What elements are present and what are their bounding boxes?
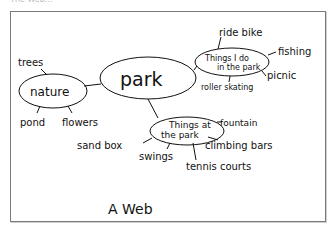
edge-nature-flowers: [68, 106, 72, 113]
edge-things-fishing: [268, 52, 276, 55]
leaf-fishing: fishing: [278, 46, 311, 57]
leaf-picnic: picnic: [267, 70, 296, 81]
leaf-climbing-bars: climbing bars: [205, 140, 273, 151]
label-things-at-park-2: the park: [161, 130, 200, 140]
leaf-tennis-courts: tennis courts: [186, 161, 251, 172]
leaf-flowers: flowers: [62, 117, 98, 128]
label-things-at-park-1: Things at: [168, 120, 211, 130]
leaf-pond: pond: [20, 117, 45, 128]
edge-park-things-at-park: [148, 99, 158, 118]
edge-park-nature: [84, 84, 101, 86]
edge-park-swings: [167, 143, 170, 149]
leaf-swings: swings: [139, 151, 173, 162]
edge-park-tennis: [193, 143, 196, 160]
label-things-i-do-1: Things I do: [204, 54, 249, 63]
label-things-i-do-2: in the park: [217, 63, 261, 72]
leaf-sand-box: sand box: [77, 140, 122, 151]
leaf-roller-skating: roller skating: [201, 83, 253, 92]
diagram-title: A Web: [108, 201, 153, 217]
label-park: park: [120, 68, 163, 90]
edge-things-picnic: [262, 71, 266, 76]
web-diagram: park nature Things I do in the park Thin…: [0, 0, 334, 232]
label-nature: nature: [30, 85, 69, 99]
leaf-ride-bike: ride bike: [219, 27, 262, 38]
edge-nature-pond: [37, 106, 40, 113]
edge-park-things-i-do: [194, 66, 197, 70]
edge-things-roller: [229, 76, 230, 82]
edge-things-ride-bike: [218, 37, 221, 49]
edge-park-sandbox: [143, 138, 152, 143]
leaf-fountain: fountain: [220, 118, 257, 128]
leaf-trees: trees: [18, 57, 43, 68]
